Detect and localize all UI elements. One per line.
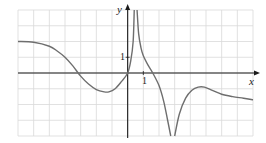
y-axis-label: y bbox=[117, 4, 122, 15]
function-graph bbox=[0, 0, 266, 143]
y-tick-label-1: 1 bbox=[120, 52, 125, 62]
x-axis-label: x bbox=[249, 76, 254, 87]
x-tick-label-1: 1 bbox=[142, 76, 147, 86]
axes bbox=[18, 4, 260, 138]
